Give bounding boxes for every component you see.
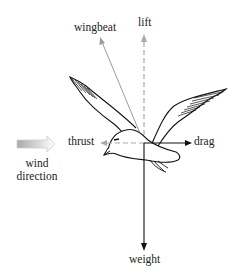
wind-label-line2: direction	[8, 171, 66, 183]
bird-forces-diagram: wingbeat lift thrust drag weight wind di…	[0, 0, 239, 276]
lift-label: lift	[138, 17, 151, 29]
wind-direction-arrow	[17, 136, 55, 152]
weight-label: weight	[129, 254, 160, 266]
wingbeat-label: wingbeat	[74, 22, 116, 34]
wind-label-line1: wind	[14, 158, 60, 170]
lift-arrow	[141, 34, 147, 143]
bird-illustration	[70, 77, 226, 172]
drag-label: drag	[194, 136, 214, 148]
thrust-label: thrust	[68, 136, 94, 148]
